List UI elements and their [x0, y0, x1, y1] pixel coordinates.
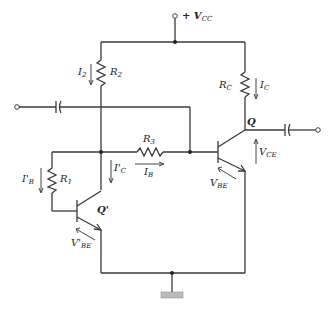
label-rc: RC [219, 80, 232, 92]
ground-icon [161, 273, 183, 298]
label-vce: VCE [259, 147, 277, 159]
voltage-arrow-vce [254, 139, 258, 164]
label-ic-prime-sub: C [121, 167, 126, 175]
input-coupling [15, 101, 190, 152]
output-terminal-icon [316, 128, 321, 133]
label-rc-main: R [219, 79, 227, 90]
resistor-r3 [137, 148, 163, 156]
label-r2: R2 [110, 67, 122, 79]
label-rc-sub: C [227, 84, 232, 92]
vcc-terminal-icon [173, 14, 178, 19]
current-arrow-ic-prime [109, 160, 113, 183]
label-ic-prime-main: I' [114, 162, 121, 173]
junction-dot-q-base [188, 150, 192, 154]
current-arrow-ib-prime [39, 168, 43, 193]
label-i2: I2 [78, 67, 86, 79]
transistor-q [218, 130, 245, 273]
label-r3-main: R [143, 133, 151, 144]
input-terminal-icon [15, 105, 20, 110]
label-vbe-sub: BE [217, 182, 227, 190]
label-ib-prime-main: I' [22, 173, 29, 184]
label-ib: IB [144, 167, 153, 179]
current-arrow-ib [135, 162, 164, 166]
label-vce-sub: CE [266, 151, 276, 159]
label-vbe-prime-sub: BE [81, 242, 91, 250]
label-r1-main: R [60, 173, 68, 184]
label-ib-prime: I'B [22, 174, 34, 186]
label-ic: IC [260, 80, 269, 92]
resistor-r2 [97, 42, 105, 190]
label-r2-main: R [110, 66, 118, 77]
label-q-prime: Q' [97, 205, 109, 215]
label-vcc-main: + V [182, 10, 202, 21]
label-vbe-prime: V'BE [71, 238, 91, 250]
current-arrow-ic [254, 78, 258, 99]
label-vbe: VBE [210, 178, 228, 190]
label-q: Q [247, 117, 256, 127]
vcc-supply [173, 14, 178, 42]
label-ic-sub: C [264, 84, 269, 92]
label-vcc-sub: CC [202, 15, 213, 23]
label-r2-sub: 2 [118, 71, 122, 79]
label-vcc: + VCC [182, 11, 212, 23]
label-ib-sub: B [148, 171, 153, 179]
label-r1: R1 [60, 174, 72, 186]
label-r1-sub: 1 [68, 178, 72, 186]
junction-dot-vcc [173, 40, 177, 44]
current-arrow-i2 [89, 64, 93, 85]
circuit-diagram [0, 0, 331, 309]
label-ic-prime: I'C [114, 163, 126, 175]
junction-dot-qprime-collector [99, 150, 103, 154]
output-coupling [245, 124, 320, 136]
label-i2-sub: 2 [82, 71, 86, 79]
label-r3: R3 [143, 134, 155, 146]
label-vbe-prime-main: V' [71, 237, 81, 248]
label-ib-prime-sub: B [29, 178, 34, 186]
label-r3-sub: 3 [151, 138, 155, 146]
